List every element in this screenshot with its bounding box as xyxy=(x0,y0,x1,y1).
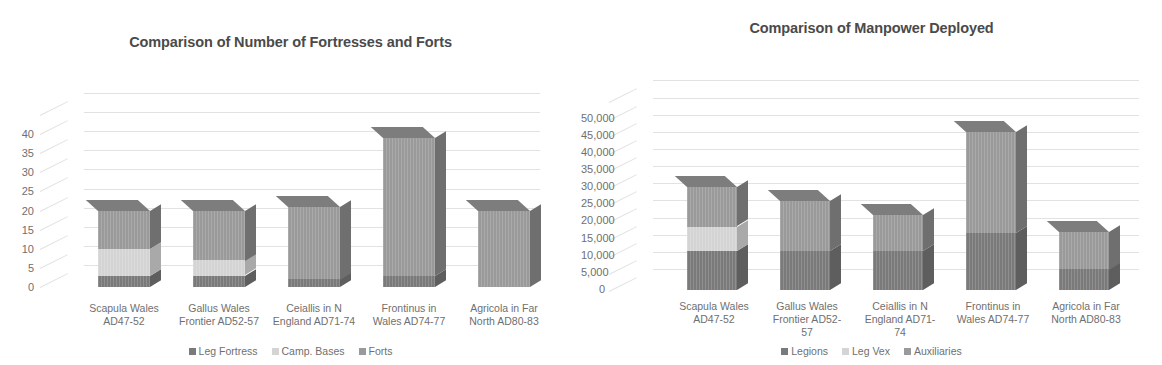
bar-face-front xyxy=(98,211,150,249)
bar-face-front xyxy=(193,211,245,261)
bar-texture xyxy=(780,251,830,290)
x-axis-category-line: Wales AD74-77 xyxy=(361,315,457,328)
bar-face-front xyxy=(98,249,150,276)
bar-face-front xyxy=(780,251,830,290)
x-axis-category-line: Scapula Wales xyxy=(76,302,172,315)
bar-segment-forts[interactable] xyxy=(288,207,340,280)
x-axis-category-line: Frontinus in xyxy=(361,302,457,315)
bar-texture xyxy=(966,233,1016,290)
legend-swatch-icon xyxy=(842,348,849,355)
gridline-skew xyxy=(609,260,637,275)
bar-texture xyxy=(383,138,435,276)
bar-segment-leg-fortress[interactable] xyxy=(288,279,340,287)
plot-area-manpower xyxy=(609,64,1139,296)
legend-label: Camp. Bases xyxy=(282,345,345,357)
bar-group[interactable] xyxy=(873,63,923,290)
bar-group[interactable] xyxy=(780,63,830,290)
bar-segment-leg-vex[interactable] xyxy=(687,227,737,251)
bar-face-front xyxy=(193,276,245,287)
y-axis-tick-label: 45,000 xyxy=(581,129,605,140)
y-axis-tick-label: 25 xyxy=(0,186,34,197)
y-axis-tick-label: 15,000 xyxy=(581,232,605,243)
bar-segment-auxiliaries[interactable] xyxy=(873,215,923,251)
bar-segment-auxiliaries[interactable] xyxy=(1059,232,1109,270)
bar-face-front xyxy=(873,215,923,251)
bar-group[interactable] xyxy=(98,78,150,287)
y-axis-tick-label: 50,000 xyxy=(581,112,605,123)
bar-texture xyxy=(288,207,340,280)
legend-swatch-icon xyxy=(904,348,911,355)
x-axis-category-line: Frontinus in xyxy=(945,300,1041,313)
bar-segment-auxiliaries[interactable] xyxy=(780,201,830,251)
bar-segment-forts[interactable] xyxy=(478,211,530,287)
x-axis-category-label: Agricola in FarNorth AD80-83 xyxy=(1038,300,1134,326)
bar-texture xyxy=(687,251,737,290)
y-axis-tick-label: 0 xyxy=(581,284,605,295)
bar-segment-leg-fortress[interactable] xyxy=(98,276,150,287)
bar-face-side xyxy=(435,131,446,275)
bar-face-front xyxy=(288,279,340,287)
bar-group[interactable] xyxy=(383,78,435,287)
bar-segment-camp-bases[interactable] xyxy=(98,249,150,276)
x-axis-category-line: AD47-52 xyxy=(76,315,172,328)
y-axis-tick-label: 40 xyxy=(0,129,34,140)
bar-face-side xyxy=(245,204,256,261)
bar-texture xyxy=(780,201,830,251)
legend-fortresses: Leg FortressCamp. BasesForts xyxy=(0,345,581,357)
bar-face-front xyxy=(687,251,737,290)
x-axis-category-label: Scapula WalesAD47-52 xyxy=(666,300,762,326)
bar-segment-legions[interactable] xyxy=(966,233,1016,290)
bar-segment-forts[interactable] xyxy=(98,211,150,249)
bar-segment-leg-fortress[interactable] xyxy=(193,276,245,287)
legend-swatch-icon xyxy=(272,348,279,355)
x-axis-category-label: Gallus WalesFrontier AD52-57 xyxy=(171,302,267,328)
bar-segment-auxiliaries[interactable] xyxy=(687,187,737,226)
legend-item[interactable]: Legions xyxy=(781,345,828,357)
bar-face-top xyxy=(1047,221,1109,232)
x-axis-category-line: Gallus Wales xyxy=(171,302,267,315)
legend-item[interactable]: Leg Vex xyxy=(842,345,890,357)
bar-group[interactable] xyxy=(288,78,340,287)
bar-texture xyxy=(1059,232,1109,270)
y-axis-tick-label: 30 xyxy=(0,167,34,178)
bar-face-front xyxy=(687,187,737,226)
legend-item[interactable]: Camp. Bases xyxy=(272,345,345,357)
bar-segment-auxiliaries[interactable] xyxy=(966,132,1016,233)
bar-group[interactable] xyxy=(966,63,1016,290)
bar-face-front xyxy=(478,211,530,287)
legend-swatch-icon xyxy=(781,348,788,355)
bar-segment-camp-bases[interactable] xyxy=(193,260,245,275)
bar-segment-legions[interactable] xyxy=(1059,269,1109,290)
bar-segment-forts[interactable] xyxy=(383,138,435,276)
bar-texture xyxy=(873,215,923,251)
bar-face-front xyxy=(780,201,830,251)
gridline-skew xyxy=(40,197,68,212)
bar-group[interactable] xyxy=(478,78,530,287)
bar-group[interactable] xyxy=(1059,63,1109,290)
bar-face-top xyxy=(768,190,830,201)
bar-segment-legions[interactable] xyxy=(873,251,923,290)
legend-label: Leg Fortress xyxy=(199,345,258,357)
bar-texture xyxy=(193,276,245,287)
bar-segment-legions[interactable] xyxy=(780,251,830,290)
bar-segment-leg-fortress[interactable] xyxy=(383,276,435,287)
bar-segment-forts[interactable] xyxy=(193,211,245,261)
legend-item[interactable]: Auxiliaries xyxy=(904,345,962,357)
gridline-skew xyxy=(40,273,68,288)
x-axis-category-label: Scapula WalesAD47-52 xyxy=(76,302,172,328)
x-axis-category-line: England AD71- xyxy=(852,313,948,326)
bar-face-side xyxy=(737,244,748,290)
x-axis-category-line: England AD71-74 xyxy=(266,315,362,328)
bar-group[interactable] xyxy=(193,78,245,287)
bar-segment-legions[interactable] xyxy=(687,251,737,290)
legend-item[interactable]: Forts xyxy=(359,345,393,357)
gridline-skew xyxy=(40,101,68,116)
y-axis-tick-label: 35,000 xyxy=(581,163,605,174)
bar-face-side xyxy=(923,208,934,251)
bar-texture xyxy=(478,211,530,287)
bar-group[interactable] xyxy=(687,63,737,290)
x-axis-category-line: AD47-52 xyxy=(666,313,762,326)
x-axis-category-line: Agricola in Far xyxy=(1038,300,1134,313)
bar-texture xyxy=(98,211,150,249)
legend-item[interactable]: Leg Fortress xyxy=(189,345,258,357)
